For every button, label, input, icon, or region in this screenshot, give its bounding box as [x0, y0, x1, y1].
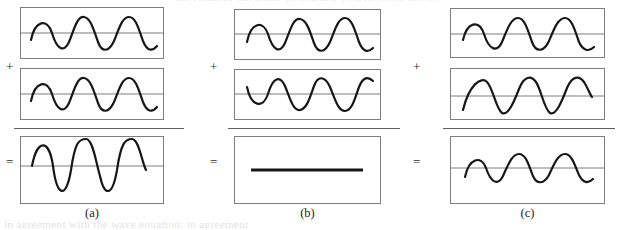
equals-operator-c: =: [413, 155, 420, 168]
sum-divider-c: [443, 128, 615, 129]
wave-plot-c-input-1: [451, 9, 604, 57]
plus-operator-b: +: [210, 60, 217, 73]
wave-box-b-result: [234, 136, 381, 204]
plus-operator-c: +: [413, 60, 420, 73]
wave-plot-a-input-1: [21, 8, 163, 58]
panel-caption-a: (a): [20, 206, 164, 221]
figure-panel-c: + = (c): [405, 0, 613, 230]
panel-caption-c: (c): [450, 206, 605, 221]
wave-plot-b-result: [235, 137, 380, 203]
wave-plot-a-input-2: [21, 69, 163, 119]
equals-operator-a: =: [6, 155, 13, 168]
wave-curve-b-input-2: [247, 78, 373, 111]
wave-box-a-input-1: [20, 7, 164, 59]
wave-plot-c-result: [451, 137, 604, 203]
wave-box-a-result: [20, 136, 164, 204]
wave-plot-b-input-1: [235, 10, 380, 59]
equals-operator-b: =: [210, 155, 217, 168]
figure-panel-a: + = (a): [0, 0, 200, 230]
panel-caption-b: (b): [234, 206, 381, 221]
wave-plot-c-input-2: [451, 69, 604, 119]
wave-box-a-input-2: [20, 68, 164, 120]
wave-plot-a-result: [21, 137, 163, 203]
sum-divider-a: [14, 128, 184, 129]
wave-box-c-input-2: [450, 68, 605, 120]
wave-box-b-input-1: [234, 9, 381, 60]
wave-box-c-result: [450, 136, 605, 204]
sum-divider-b: [228, 128, 400, 129]
figure-panel-b: + = (b): [200, 0, 405, 230]
wave-box-b-input-2: [234, 69, 381, 120]
plus-operator-a: +: [6, 60, 13, 73]
wave-curve-a-result: [32, 139, 146, 191]
wave-plot-b-input-2: [235, 70, 380, 119]
wave-box-c-input-1: [450, 8, 605, 58]
